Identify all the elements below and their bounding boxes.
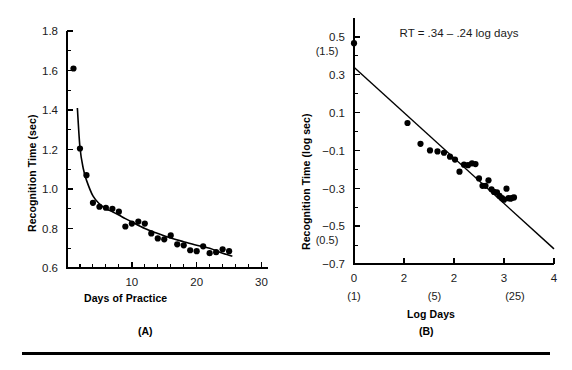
data-point	[503, 186, 509, 192]
svg-text:(5): (5)	[428, 290, 441, 302]
svg-text:−0.1: −0.1	[322, 145, 345, 157]
svg-text:(1.5): (1.5)	[316, 45, 339, 57]
data-point	[200, 243, 206, 249]
panel-b: −0.7−0.5(0.5)−0.3−0.10.10.30.5(1.5)02234…	[288, 0, 572, 348]
data-point	[511, 194, 517, 200]
panel-b-label: (B)	[419, 325, 434, 337]
svg-text:10: 10	[125, 276, 138, 288]
data-point	[187, 247, 193, 253]
panel-b-y-axis-title: Recognition Time (log sec)	[300, 113, 312, 250]
data-point	[148, 230, 154, 236]
svg-text:20: 20	[190, 276, 203, 288]
data-point	[129, 220, 135, 226]
figure-divider-rule	[22, 352, 550, 355]
data-point	[351, 40, 357, 46]
svg-text:(25): (25)	[505, 290, 525, 302]
data-point	[226, 248, 232, 254]
data-point	[482, 183, 488, 189]
svg-text:−0.7: −0.7	[322, 258, 345, 270]
data-point	[116, 209, 122, 215]
data-point	[77, 145, 83, 151]
data-point	[472, 161, 478, 167]
svg-text:1.2: 1.2	[42, 144, 58, 156]
data-point	[168, 232, 174, 238]
data-point	[194, 248, 200, 254]
data-point	[404, 120, 410, 126]
panel-b-x-axis-title: Log Days	[407, 308, 455, 320]
panel-a-y-axis-title: Recognition Time (sec)	[26, 114, 38, 232]
panel-a: 0.60.81.01.21.41.61.8102030 Recognition …	[0, 0, 290, 348]
data-point	[427, 147, 433, 153]
data-point	[181, 242, 187, 248]
data-point	[83, 172, 89, 178]
data-point	[70, 65, 76, 71]
data-point	[441, 150, 447, 156]
svg-text:0.8: 0.8	[42, 223, 58, 235]
data-point	[485, 177, 491, 183]
data-point	[452, 156, 458, 162]
svg-text:(1): (1)	[347, 290, 360, 302]
panel-a-x-axis-title: Days of Practice	[84, 292, 167, 304]
svg-text:0.5: 0.5	[329, 31, 345, 43]
data-point	[122, 223, 128, 229]
svg-text:0: 0	[351, 272, 357, 284]
svg-text:4: 4	[551, 272, 558, 284]
data-point	[135, 218, 141, 224]
svg-text:−0.3: −0.3	[322, 183, 345, 195]
svg-text:30: 30	[255, 276, 268, 288]
data-point	[155, 235, 161, 241]
data-point	[96, 204, 102, 210]
data-point	[220, 246, 226, 252]
data-point	[174, 241, 180, 247]
regression-equation-annotation: RT = .34 – .24 log days	[400, 27, 519, 39]
svg-text:1.8: 1.8	[42, 25, 58, 37]
data-point	[456, 169, 462, 175]
data-point	[417, 141, 423, 147]
data-point	[103, 205, 109, 211]
svg-text:(0.5): (0.5)	[316, 234, 339, 246]
svg-text:2: 2	[401, 272, 407, 284]
data-point	[434, 148, 440, 154]
data-point	[109, 206, 115, 212]
svg-text:−0.5: −0.5	[322, 220, 345, 232]
svg-text:1.6: 1.6	[42, 65, 58, 77]
panel-b-plot: −0.7−0.5(0.5)−0.3−0.10.10.30.5(1.5)02234…	[288, 0, 572, 348]
svg-text:3: 3	[501, 272, 507, 284]
data-point	[161, 236, 167, 242]
svg-text:2: 2	[451, 272, 457, 284]
svg-text:0.1: 0.1	[329, 107, 345, 119]
svg-text:1.0: 1.0	[42, 183, 58, 195]
svg-text:0.3: 0.3	[329, 69, 345, 81]
data-point	[142, 220, 148, 226]
data-point	[476, 175, 482, 181]
data-point	[90, 200, 96, 206]
data-point	[207, 250, 213, 256]
panel-a-label: (A)	[138, 325, 153, 337]
figure-container: 0.60.81.01.21.41.61.8102030 Recognition …	[0, 0, 572, 370]
svg-text:0.6: 0.6	[42, 262, 58, 274]
svg-text:1.4: 1.4	[42, 104, 59, 116]
data-point	[213, 249, 219, 255]
